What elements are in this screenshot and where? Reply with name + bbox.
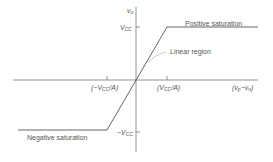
vcc-label: VCC bbox=[120, 24, 132, 32]
neg-vcc-over-a-label: (−VCC/A) bbox=[91, 84, 118, 92]
linear-region-leader bbox=[148, 52, 166, 63]
neg-vcc-label: −VCC bbox=[117, 129, 133, 137]
y-axis-label: vo bbox=[127, 7, 133, 15]
negative-saturation-label: Negative saturation bbox=[27, 134, 87, 141]
linear-region-label: Linear region bbox=[170, 48, 211, 55]
x-axis-label: (vp−vn) bbox=[232, 84, 253, 92]
transfer-curve bbox=[18, 27, 258, 130]
positive-saturation-label: Positive saturation bbox=[185, 20, 242, 27]
vcc-over-a-label: (VCC/A) bbox=[157, 84, 180, 92]
